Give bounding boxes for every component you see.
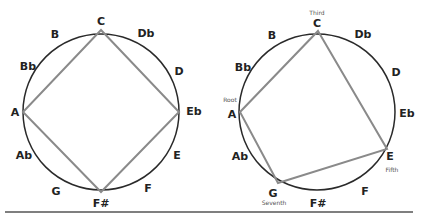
note-label-b: B [51,28,59,41]
note-label-db: Db [354,28,371,41]
note-label-ab: Ab [232,150,249,163]
note-label-b: B [268,29,276,42]
role-label-root: Root [223,96,237,103]
note-label-e: E [173,149,181,162]
note-label-c: C [313,17,321,30]
right-diagram: Third C Db D Eb E Fifth F F# G Seventh A… [223,9,415,210]
note-label-e: E [386,150,394,163]
note-label-g: G [51,185,60,198]
note-label-f: F [361,185,369,198]
note-label-db: Db [137,27,154,40]
role-label-fifth: Fifth [386,166,399,173]
note-label-fs: F# [93,197,110,210]
chord-diagrams: C Db D Eb E F F# G Ab A Bb B Third C Db … [0,0,423,222]
left-diagram: C Db D Eb E F F# G Ab A Bb B [11,15,202,210]
note-circle [23,34,179,190]
note-label-fs: F# [310,197,327,210]
role-label-seventh: Seventh [262,199,287,206]
note-label-ab: Ab [16,149,33,162]
note-label-eb: Eb [399,107,415,120]
note-label-d: D [391,66,400,79]
chord-polygon [240,31,387,183]
note-label-eb: Eb [186,105,202,118]
note-label-c: C [97,15,105,28]
note-label-d: D [174,65,183,78]
note-label-bb: Bb [20,60,36,73]
role-label-third: Third [308,9,324,16]
note-label-a: A [228,108,237,121]
note-label-f: F [144,182,152,195]
note-circle [239,34,395,190]
note-label-bb: Bb [235,61,251,74]
note-label-a: A [11,106,20,119]
